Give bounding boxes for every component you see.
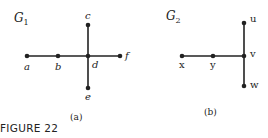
vertex-label-d: d xyxy=(92,60,98,70)
vertex-label-v: v xyxy=(250,49,256,59)
graph-g1-caption: (a) xyxy=(70,112,82,122)
vertex-label-w: w xyxy=(250,80,259,90)
vertex-label-y: y xyxy=(210,60,216,70)
vertex-label-f: f xyxy=(125,51,129,61)
graph-g2-title: G2 xyxy=(166,9,181,25)
graph-g1-edges xyxy=(27,25,120,88)
vertex-label-b: b xyxy=(55,62,61,72)
graph-g2-vertices xyxy=(180,21,247,89)
vertex-label-u: u xyxy=(250,14,256,24)
vertex-label-a: a xyxy=(24,62,30,72)
graph-g1-title: G1 xyxy=(14,11,29,27)
vertex-label-x: x xyxy=(179,60,185,70)
graph-drawings xyxy=(0,0,268,138)
graph-g2-caption: (b) xyxy=(204,107,217,117)
vertex-label-e: e xyxy=(85,92,91,102)
vertex-label-c: c xyxy=(85,11,91,21)
figure-label: FIGURE 22 xyxy=(0,122,58,134)
